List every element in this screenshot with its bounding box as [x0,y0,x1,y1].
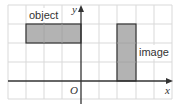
y-axis [78,5,84,104]
x-axis [8,78,173,84]
object-rectangle [26,24,81,43]
coordinate-grid-diagram: object image y x O [0,0,183,104]
object-label: object [29,9,58,21]
y-axis-arrow-icon [78,5,84,12]
y-axis-label: y [71,3,77,15]
image-label: image [139,46,169,58]
image-rectangle [117,24,136,81]
x-axis-label: x [164,84,170,96]
origin-label: O [70,84,78,96]
